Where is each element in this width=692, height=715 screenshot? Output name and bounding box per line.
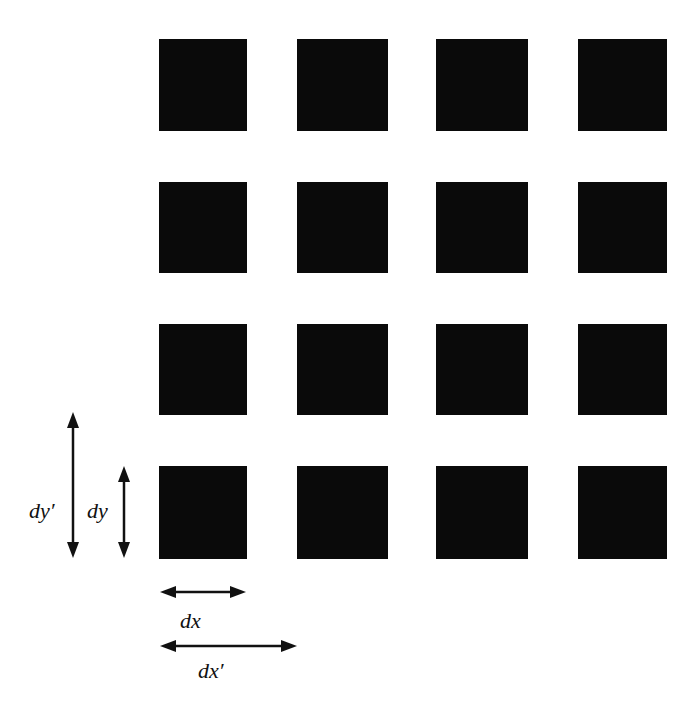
dy-arrow [118, 466, 130, 558]
dy-prime-label: dy′ [29, 500, 55, 522]
dimension-arrows [0, 0, 692, 715]
dx-arrow [160, 586, 246, 598]
dx-prime-label: dx′ [198, 660, 224, 682]
dx-prime-arrow [160, 640, 297, 652]
dy-prime-arrow [67, 412, 79, 558]
dx-label: dx [180, 610, 201, 632]
dy-label: dy [87, 500, 108, 522]
